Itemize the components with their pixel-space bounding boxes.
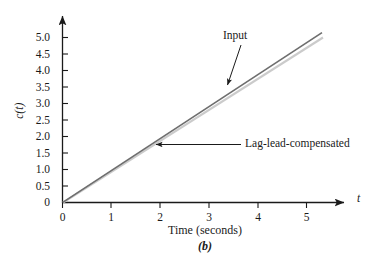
figure-panel-b: 0 0.5 1.0 1.5 2.0 2.5 3.0 3.5 4.0 4.5 5.… <box>0 0 380 263</box>
y-tick-label-5-0: 5.0 <box>8 32 50 44</box>
y-tick-label-4-0: 4.0 <box>8 65 50 77</box>
y-tick-label-1-0: 1.0 <box>8 164 50 176</box>
y-tick-label-0: 0 <box>8 197 50 209</box>
panel-caption: (b) <box>155 240 255 252</box>
y-axis-title: c(t) <box>14 94 26 128</box>
x-axis-variable-label: t <box>357 193 360 205</box>
y-tick-marks <box>63 38 69 203</box>
x-tick-label-5: 5 <box>293 212 321 224</box>
x-axis-title: Time (seconds) <box>130 224 280 236</box>
x-tick-label-0: 0 <box>49 212 77 224</box>
y-tick-label-4-5: 4.5 <box>8 49 50 61</box>
y-tick-label-1-5: 1.5 <box>8 148 50 160</box>
annotation-input-label: Input <box>223 30 247 42</box>
x-tick-label-1: 1 <box>97 212 125 224</box>
series-line-lag-lead-compensated <box>63 38 323 203</box>
x-tick-label-2: 2 <box>146 212 174 224</box>
series-line-input <box>63 33 322 203</box>
input-leader-line <box>228 45 242 85</box>
y-tick-label-2-0: 2.0 <box>8 131 50 143</box>
x-tick-label-3: 3 <box>195 212 223 224</box>
y-tick-label-0-5: 0.5 <box>8 181 50 193</box>
x-tick-label-4: 4 <box>244 212 272 224</box>
x-tick-marks <box>63 203 307 209</box>
y-tick-label-3-5: 3.5 <box>8 82 50 94</box>
annotation-lag-lead-compensated-label: Lag-lead-compensated <box>245 138 350 150</box>
